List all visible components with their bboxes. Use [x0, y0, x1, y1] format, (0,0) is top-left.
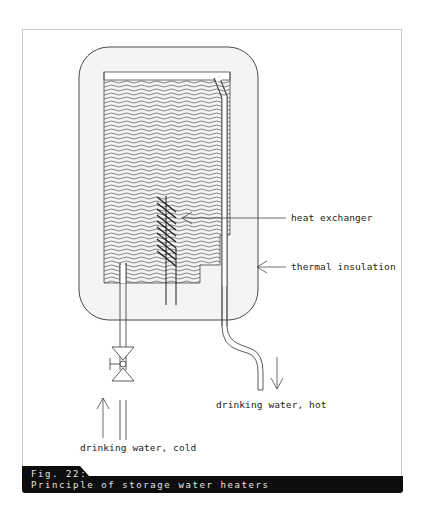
thermal-insulation-pointer — [257, 261, 286, 273]
arrow-up-icon — [97, 398, 109, 438]
label-drinking-water-hot: drinking water, hot — [216, 399, 327, 410]
arrow-down-icon — [271, 357, 283, 389]
label-thermal-insulation: thermal insulation — [291, 261, 396, 272]
label-drinking-water-cold: drinking water, cold — [80, 442, 196, 453]
figure-caption: Fig. 22: Principle of storage water heat… — [22, 466, 403, 493]
figure-number: Fig. 22: — [31, 469, 87, 479]
valve-icon — [110, 347, 134, 381]
figure-caption-text: Principle of storage water heaters — [31, 480, 270, 490]
label-heat-exchanger: heat exchanger — [291, 212, 372, 223]
